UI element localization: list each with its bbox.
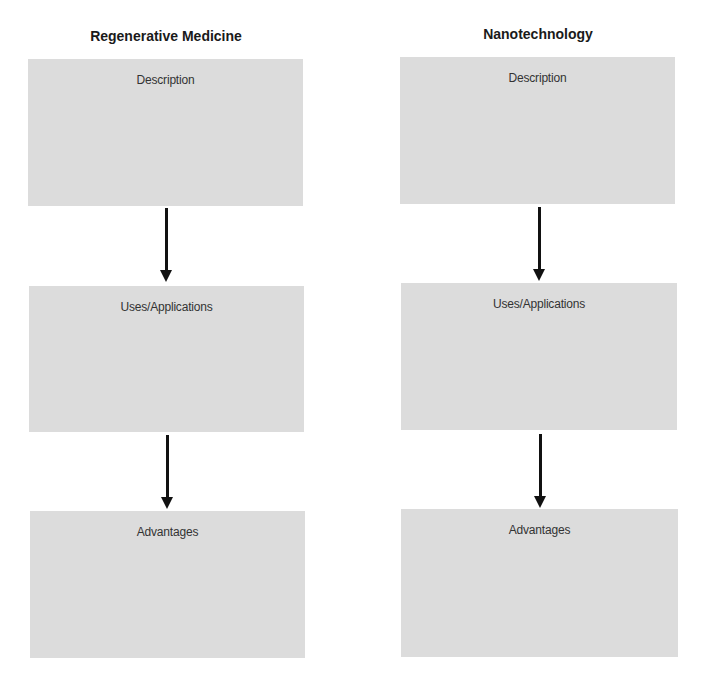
down-arrow-icon — [533, 207, 545, 281]
box-label: Description — [28, 73, 303, 87]
advantages-box: Advantages — [401, 509, 678, 657]
down-arrow-icon — [161, 435, 173, 509]
column-title: Nanotechnology — [400, 26, 676, 42]
advantages-box: Advantages — [30, 511, 305, 658]
box-label: Description — [400, 71, 675, 85]
box-label: Advantages — [30, 525, 305, 539]
column-title: Regenerative Medicine — [28, 28, 304, 44]
down-arrow-icon — [534, 434, 546, 508]
uses-applications-box: Uses/Applications — [401, 283, 677, 430]
box-label: Uses/Applications — [29, 300, 304, 314]
down-arrow-icon — [160, 208, 172, 282]
description-box: Description — [28, 59, 303, 206]
uses-applications-box: Uses/Applications — [29, 286, 304, 432]
box-label: Uses/Applications — [401, 297, 677, 311]
description-box: Description — [400, 57, 675, 204]
box-label: Advantages — [401, 523, 678, 537]
